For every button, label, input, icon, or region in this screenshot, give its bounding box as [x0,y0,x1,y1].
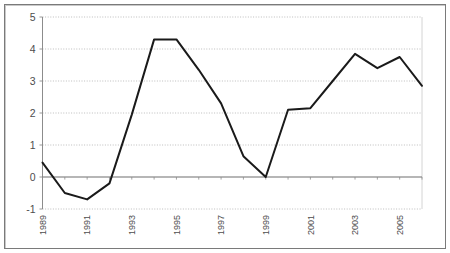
y-tick-label-4: 4 [30,43,36,55]
x-tick-label-2001: 2001 [306,215,316,235]
line-chart: -1012345 1989199119931995199719992001200… [0,0,450,253]
series-line-series-1 [43,39,423,199]
x-tick-label-1993: 1993 [127,215,137,235]
y-axis-tick-labels: -1012345 [26,11,42,215]
data-series-line [43,39,423,199]
x-tick-label-1989: 1989 [38,215,48,235]
y-tick-label-1: 1 [30,139,36,151]
x-tick-label-1999: 1999 [261,215,271,235]
y-tick-label--1: -1 [26,203,35,215]
gridlines-group [43,17,423,209]
y-tick-label-0: 0 [30,171,36,183]
x-axis-tick-labels: 198919911993199519971999200120032005 [38,215,405,235]
y-tick-label-5: 5 [30,11,36,23]
y-tick-label-2: 2 [30,107,36,119]
x-tick-label-1995: 1995 [172,215,182,235]
x-tick-label-1991: 1991 [82,215,92,235]
x-tick-label-1997: 1997 [216,215,226,235]
x-tick-label-2005: 2005 [395,215,405,235]
chart-figure: -1012345 1989199119931995199719992001200… [0,0,450,253]
y-tick-label-3: 3 [30,75,36,87]
x-tick-label-2003: 2003 [350,215,360,235]
